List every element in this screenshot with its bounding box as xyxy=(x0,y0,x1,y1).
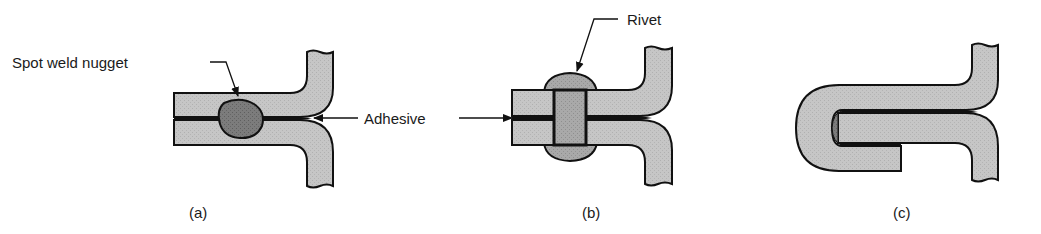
adhesive-joint-diagram: Spot weld nugget (a) Adhesive Rivet (b) xyxy=(0,0,1041,234)
rivet-leader xyxy=(577,19,618,71)
figure-c-hem-joint: (c) xyxy=(796,44,998,222)
adhesive-callout: Adhesive xyxy=(314,110,512,127)
rivet-shank xyxy=(554,90,586,145)
adhesive-label: Adhesive xyxy=(364,110,426,127)
outer-hemmed-sheet xyxy=(796,44,998,172)
caption-c: (c) xyxy=(893,204,911,221)
figure-b-rivet-joint: Rivet (b) xyxy=(512,11,672,221)
spot-weld-label: Spot weld nugget xyxy=(12,54,129,71)
caption-a: (a) xyxy=(189,204,207,221)
spot-weld-nugget xyxy=(219,100,263,138)
adhesive-layer-c xyxy=(842,110,978,114)
figure-a-spot-weld-joint: Spot weld nugget (a) xyxy=(12,51,333,222)
spot-weld-leader xyxy=(210,62,238,96)
rivet-label: Rivet xyxy=(627,11,662,28)
caption-b: (b) xyxy=(582,204,600,221)
